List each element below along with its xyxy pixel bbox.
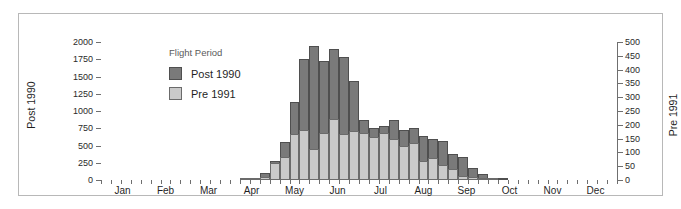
legend-label-pre-1991: Pre 1991 <box>191 88 236 100</box>
x-tick <box>309 180 310 184</box>
bar-pre-1991 <box>369 137 379 180</box>
x-tick <box>548 180 549 184</box>
legend: Flight Period Post 1990 Pre 1991 <box>169 47 241 107</box>
y-tick-label-right: 500 <box>625 37 640 47</box>
legend-title: Flight Period <box>169 47 241 58</box>
x-tick <box>488 180 489 184</box>
bar-pre-1991-segment <box>428 158 438 180</box>
y-tick-label-right: 400 <box>625 65 640 75</box>
bar-pre-1991-segment <box>458 176 468 180</box>
bar-pre-1991 <box>428 158 438 180</box>
bar-pre-1991 <box>240 179 250 180</box>
bar-pre-1991-segment <box>280 157 290 180</box>
x-tick-label-oct: Oct <box>486 186 534 196</box>
y-tick-label-left: 250 <box>51 158 93 168</box>
x-tick <box>339 180 340 184</box>
y-tick-label-right: 250 <box>625 106 640 116</box>
chart-figure: Post 1990 Pre 1991 025050075010001250150… <box>0 0 681 209</box>
bar-pre-1991 <box>359 133 369 180</box>
y-tick-label-left: 500 <box>51 141 93 151</box>
bar-pre-1991-segment <box>309 149 319 180</box>
x-tick-label-feb: Feb <box>142 186 190 196</box>
x-tick <box>299 180 300 184</box>
x-tick <box>210 180 211 184</box>
y-tick-label-right: 0 <box>625 175 630 185</box>
legend-item-pre-1991: Pre 1991 <box>169 87 241 100</box>
bar-pre-1991-segment <box>339 134 349 180</box>
bar-pre-1991 <box>270 163 280 180</box>
y-tick-label-left: 750 <box>51 123 93 133</box>
x-tick <box>200 180 201 184</box>
x-tick <box>557 180 558 184</box>
x-tick <box>617 180 618 184</box>
y-tick-label-right: 150 <box>625 134 640 144</box>
x-tick <box>170 180 171 184</box>
y-tick-right <box>618 152 623 153</box>
bar-pre-1991-segment <box>478 178 488 180</box>
y-tick-label-left: 1750 <box>51 54 93 64</box>
x-tick-label-sep: Sep <box>443 186 491 196</box>
x-tick <box>161 180 162 184</box>
y-tick-label-right: 350 <box>625 78 640 88</box>
bar-pre-1991-segment <box>369 137 379 180</box>
x-tick <box>290 180 291 184</box>
x-tick <box>399 180 400 184</box>
bar-pre-1991 <box>478 178 488 180</box>
y-tick-label-right: 50 <box>625 161 635 171</box>
chart-frame: Post 1990 Pre 1991 025050075010001250150… <box>18 13 663 196</box>
x-tick <box>498 180 499 184</box>
legend-swatch-post-1990 <box>169 67 182 80</box>
x-tick <box>111 180 112 184</box>
x-tick-label-may: May <box>271 186 319 196</box>
x-tick <box>141 180 142 184</box>
y-tick-label-left: 2000 <box>51 37 93 47</box>
legend-swatch-pre-1991 <box>169 87 182 100</box>
bar-pre-1991-segment <box>299 130 309 180</box>
bar-pre-1991-segment <box>468 177 478 180</box>
x-tick <box>270 180 271 184</box>
y-tick-label-right: 200 <box>625 120 640 130</box>
x-tick <box>587 180 588 184</box>
x-tick <box>121 180 122 184</box>
x-tick <box>131 180 132 184</box>
bar-pre-1991-segment <box>379 133 389 180</box>
bar-pre-1991-segment <box>349 131 359 180</box>
y-tick-label-right: 450 <box>625 51 640 61</box>
x-tick <box>240 180 241 184</box>
y-tick-right <box>618 83 623 84</box>
x-tick <box>419 180 420 184</box>
x-tick-label-jul: Jul <box>357 186 405 196</box>
bar-pre-1991-segment <box>389 139 399 180</box>
y-tick-label-left: 1250 <box>51 89 93 99</box>
bar-pre-1991-segment <box>240 178 250 180</box>
bar-pre-1991 <box>458 176 468 180</box>
x-tick-label-jun: Jun <box>314 186 362 196</box>
bar-pre-1991 <box>339 134 349 180</box>
x-tick-label-apr: Apr <box>228 186 276 196</box>
x-tick <box>538 180 539 184</box>
bar-pre-1991 <box>299 130 309 180</box>
x-tick <box>349 180 350 184</box>
bar-pre-1991 <box>488 179 498 180</box>
bar-pre-1991 <box>260 177 270 180</box>
legend-item-post-1990: Post 1990 <box>169 67 241 80</box>
bar-pre-1991 <box>399 146 409 181</box>
bar-pre-1991 <box>438 165 448 180</box>
bar-pre-1991 <box>319 133 329 180</box>
bar-pre-1991 <box>280 157 290 180</box>
x-tick <box>528 180 529 184</box>
y-tick-right <box>618 180 623 181</box>
bar-pre-1991-segment <box>329 119 339 180</box>
bar-pre-1991 <box>389 139 399 180</box>
bar-pre-1991 <box>419 161 429 180</box>
y-tick-right <box>618 111 623 112</box>
x-tick <box>468 180 469 184</box>
y-tick-right <box>618 166 623 167</box>
bar-pre-1991-segment <box>438 165 448 180</box>
y-tick-label-right: 300 <box>625 92 640 102</box>
bar-pre-1991 <box>468 177 478 180</box>
bar-pre-1991 <box>250 179 260 180</box>
x-tick-label-nov: Nov <box>529 186 577 196</box>
x-tick-label-aug: Aug <box>400 186 448 196</box>
x-tick <box>369 180 370 184</box>
